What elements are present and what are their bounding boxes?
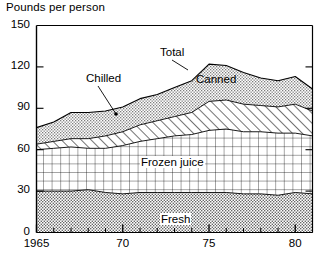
annotation-canned: Canned <box>196 73 236 85</box>
x-tick-label-1970: 70 <box>100 237 146 249</box>
y-tick-label-90: 90 <box>2 100 30 112</box>
chilled-leader-dot <box>114 112 118 116</box>
y-tick-label-120: 120 <box>2 59 30 71</box>
leader-line-chilled <box>98 86 116 114</box>
y-tick-label-0: 0 <box>2 225 30 237</box>
x-tick-label-1965: 1965 <box>14 237 60 249</box>
annotation-chilled: Chilled <box>86 72 121 84</box>
chart-root: Pounds per person 0 <box>0 0 323 266</box>
y-tick-label-60: 60 <box>2 142 30 154</box>
annotation-total: Total <box>160 46 184 58</box>
y-tick-label-150: 150 <box>2 18 30 30</box>
leader-line-total <box>172 60 188 70</box>
x-tick-label-1975: 75 <box>186 237 232 249</box>
y-tick-label-30: 30 <box>2 183 30 195</box>
x-tick-label-1980: 80 <box>272 237 318 249</box>
area-chart-plot <box>0 0 323 266</box>
area-layer-fresh <box>37 190 313 233</box>
annotation-frozen-juice: Frozen juice <box>140 156 205 168</box>
annotation-fresh: Fresh <box>160 213 191 225</box>
